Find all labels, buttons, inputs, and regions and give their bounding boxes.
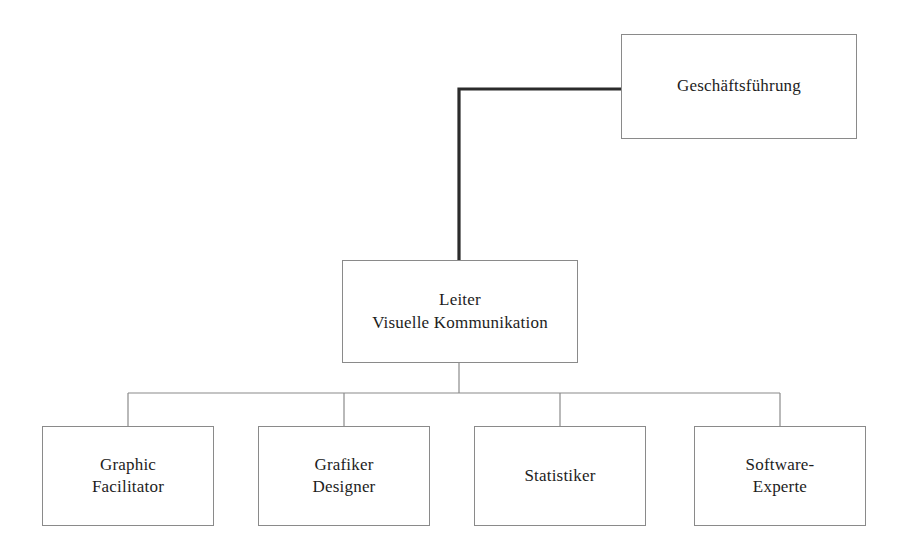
node-geschaeftsfuehrung: Geschäftsführung bbox=[621, 34, 857, 139]
node-software-experte-label: Software- Experte bbox=[746, 454, 815, 499]
node-graphic-facilitator-label: Graphic Facilitator bbox=[92, 454, 164, 499]
node-leiter-visuelle-kommunikation: Leiter Visuelle Kommunikation bbox=[342, 260, 578, 363]
node-statistiker-label: Statistiker bbox=[524, 465, 595, 487]
node-geschaeftsfuehrung-label: Geschäftsführung bbox=[677, 75, 801, 97]
node-statistiker: Statistiker bbox=[474, 426, 646, 526]
node-leiter-visuelle-kommunikation-label: Leiter Visuelle Kommunikation bbox=[372, 289, 548, 334]
node-grafiker-designer: Grafiker Designer bbox=[258, 426, 430, 526]
node-software-experte: Software- Experte bbox=[694, 426, 866, 526]
edge-executive-to-head bbox=[459, 89, 621, 260]
node-grafiker-designer-label: Grafiker Designer bbox=[313, 454, 376, 499]
node-graphic-facilitator: Graphic Facilitator bbox=[42, 426, 214, 526]
org-chart-diagram: Geschäftsführung Leiter Visuelle Kommuni… bbox=[0, 0, 904, 557]
